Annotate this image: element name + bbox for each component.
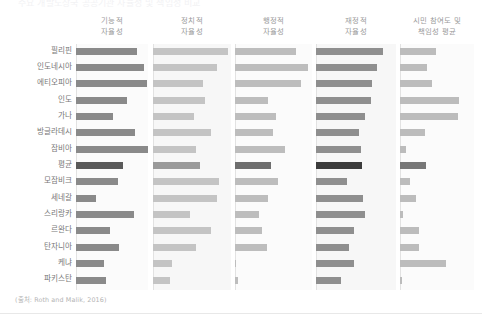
category-label-11: 스리랑카 (6, 209, 72, 218)
bar-2-2 (153, 64, 217, 71)
bar-4-5 (316, 113, 365, 120)
category-label-12: 르완다 (6, 225, 72, 234)
bar-2-15 (153, 277, 170, 284)
chart-figure: 주요 개발도상국 공공기관 자율성 및 책임성 비교 기능적자율성정치적자율성행… (0, 0, 482, 318)
bar-4-4 (316, 97, 371, 104)
bar-2-8 (153, 162, 200, 169)
bar-2-14 (153, 260, 172, 267)
category-label-10: 세네갈 (6, 193, 72, 202)
bar-3-14 (235, 260, 236, 267)
category-label-13: 탄자니아 (6, 242, 72, 251)
bar-5-3 (400, 80, 432, 87)
bar-1-6 (76, 129, 135, 136)
bar-1-4 (76, 97, 127, 104)
bar-2-10 (153, 195, 217, 202)
bar-1-5 (76, 113, 113, 120)
bar-1-13 (76, 244, 119, 251)
bar-2-7 (153, 146, 196, 153)
bar-1-8 (76, 162, 123, 169)
bar-4-2 (316, 64, 377, 71)
source-note: (출처: Roth and Malik, 2016) (15, 295, 106, 304)
bar-4-15 (316, 277, 341, 284)
bar-5-4 (400, 97, 459, 104)
bar-1-12 (76, 227, 110, 234)
bar-5-13 (400, 244, 419, 251)
bar-2-12 (153, 227, 211, 234)
bar-4-9 (316, 178, 347, 185)
bar-3-15 (235, 277, 238, 284)
figure-bottom-rule (0, 313, 482, 314)
category-label-6: 방글라데시 (6, 127, 72, 136)
bar-5-10 (400, 195, 416, 202)
bar-4-8 (316, 162, 362, 169)
bar-3-9 (235, 178, 278, 185)
bar-4-14 (316, 260, 354, 267)
bar-1-14 (76, 260, 104, 267)
category-label-5: 가나 (6, 111, 72, 120)
bar-3-4 (235, 97, 268, 104)
bar-5-14 (400, 260, 446, 267)
category-label-15: 파키스탄 (6, 274, 72, 283)
bar-1-9 (76, 178, 118, 185)
bar-2-3 (153, 80, 203, 87)
bar-5-7 (400, 146, 406, 153)
bar-3-6 (235, 129, 273, 136)
bar-4-6 (316, 129, 359, 136)
bar-2-6 (153, 129, 211, 136)
category-label-3: 에티오피아 (6, 78, 72, 87)
column-header-5-line-2: 책임성 평균 (386, 27, 482, 38)
bar-3-7 (235, 146, 285, 153)
bar-5-2 (400, 64, 427, 71)
bar-5-12 (400, 227, 419, 234)
bar-4-7 (316, 146, 361, 153)
category-label-2: 인도네시아 (6, 62, 72, 71)
bar-5-11 (400, 211, 403, 218)
category-label-14: 케냐 (6, 258, 72, 267)
bar-4-10 (316, 195, 363, 202)
bar-2-11 (153, 211, 190, 218)
bar-3-8 (235, 162, 271, 169)
category-label-1: 필리핀 (6, 46, 72, 55)
category-label-column: 필리핀인도네시아에티오피아인도가나방글라데시잠비아평균모잠비크세네갈스리랑카르완… (6, 44, 72, 290)
bar-5-5 (400, 113, 458, 120)
bar-2-4 (153, 97, 205, 104)
bar-2-1 (153, 48, 228, 55)
bar-3-11 (235, 211, 259, 218)
bar-3-13 (235, 244, 267, 251)
bar-1-15 (76, 277, 106, 284)
category-label-8: 평균 (6, 160, 72, 169)
bar-3-1 (235, 48, 296, 55)
bar-1-3 (76, 80, 147, 87)
bar-3-2 (235, 64, 308, 71)
column-header-5-line-1: 시민 참여도 및 (386, 16, 482, 27)
bar-1-2 (76, 64, 144, 71)
bar-3-5 (235, 113, 276, 120)
bar-2-9 (153, 178, 219, 185)
bar-1-7 (76, 146, 148, 153)
bar-4-3 (316, 80, 372, 87)
chart-title: 주요 개발도상국 공공기관 자율성 및 책임성 비교 (18, 0, 458, 8)
bar-5-9 (400, 178, 410, 185)
bar-3-12 (235, 227, 262, 234)
bar-2-5 (153, 113, 194, 120)
bar-2-13 (153, 244, 196, 251)
bar-4-12 (316, 227, 354, 234)
bar-3-10 (235, 195, 268, 202)
bar-5-8 (400, 162, 426, 169)
bar-4-11 (316, 211, 365, 218)
column-header-5: 시민 참여도 및책임성 평균 (386, 16, 482, 37)
bar-5-1 (400, 48, 436, 55)
bar-1-10 (76, 195, 96, 202)
bar-5-6 (400, 129, 425, 136)
bar-1-11 (76, 211, 134, 218)
category-label-4: 인도 (6, 95, 72, 104)
bar-3-3 (235, 80, 301, 87)
bar-5-15 (400, 277, 402, 284)
category-label-9: 모잠비크 (6, 176, 72, 185)
bar-4-1 (316, 48, 383, 55)
bar-4-13 (316, 244, 349, 251)
bar-1-1 (76, 48, 137, 55)
category-label-7: 잠비아 (6, 144, 72, 153)
